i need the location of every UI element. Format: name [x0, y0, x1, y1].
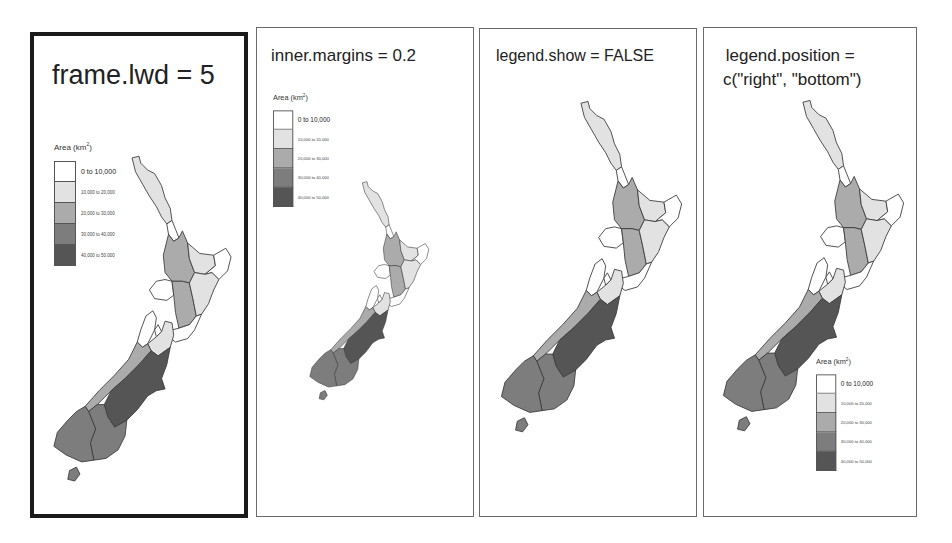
title-line-1: legend.position = — [719, 44, 861, 68]
region-northland — [132, 156, 172, 224]
legend-item: 10,000 to 20,000 — [816, 393, 873, 412]
legend-item: 30,000 to 40,000 — [816, 432, 873, 451]
region-southland — [310, 350, 338, 387]
panel-legend-show: legend.show = FALSE — [479, 28, 697, 517]
panel-legend-position: legend.position = c("right", "bottom") A… — [703, 27, 917, 517]
legend-title: Area (km2) — [273, 92, 330, 102]
legend-label: 20,000 to 30,000 — [298, 156, 329, 161]
region-southland — [501, 356, 543, 413]
nz-map — [704, 93, 916, 433]
legend-label: 10,000 to 20,000 — [298, 137, 329, 142]
legend-swatch — [273, 129, 293, 148]
legend-item: 40,000 to 50,000 — [816, 451, 873, 470]
legend-item: 10,000 to 20,000 — [273, 129, 330, 148]
region-stewart-island — [319, 391, 327, 400]
legend-item: 0 to 10,000 — [816, 374, 873, 393]
legend-swatch — [273, 149, 293, 168]
region-taranaki — [149, 280, 173, 301]
region-taranaki — [599, 227, 624, 248]
legend-swatch — [273, 168, 293, 187]
legend-item: 20,000 to 30,000 — [816, 413, 873, 432]
nz-map — [34, 151, 244, 481]
region-stewart-island — [516, 418, 528, 432]
legend-title: Area (km2) — [816, 356, 873, 366]
region-stewart-island — [738, 417, 750, 431]
region-southland — [723, 355, 765, 412]
legend-label: 30,000 to 40,000 — [841, 439, 872, 444]
region-northland — [803, 100, 844, 169]
legend-swatch — [816, 393, 836, 412]
legend-swatch — [273, 110, 293, 129]
legend-item: 20,000 to 30,000 — [273, 149, 330, 168]
panel-title: legend.position = c("right", "bottom") — [719, 44, 861, 92]
panel-frame-lwd: frame.lwd = 5 Area (km2) 0 to 10,00010,0… — [30, 32, 248, 518]
map-legend: Area (km2) 0 to 10,00010,000 to 20,00020… — [816, 356, 873, 471]
title-line-2: c("right", "bottom") — [723, 68, 861, 92]
legend-swatch — [816, 374, 836, 393]
legend-label: 10,000 to 20,000 — [841, 401, 872, 406]
legend-label: 40,000 to 50,000 — [841, 459, 872, 464]
region-northland — [362, 182, 389, 228]
legend-swatch — [816, 451, 836, 470]
region-taranaki — [821, 226, 846, 247]
legend-label: 0 to 10,000 — [298, 117, 330, 123]
legend-swatch — [816, 413, 836, 432]
legend-swatch — [816, 432, 836, 451]
nz-map — [297, 176, 437, 402]
panel-title: legend.show = FALSE — [496, 47, 654, 65]
region-southland — [54, 406, 96, 462]
panel-inner-margins: inner.margins = 0.2 Area (km2) 0 to 10,0… — [256, 27, 474, 517]
legend-item: 0 to 10,000 — [273, 110, 330, 129]
panel-title: frame.lwd = 5 — [52, 60, 215, 91]
nz-map — [482, 94, 694, 434]
panel-title: inner.margins = 0.2 — [271, 46, 416, 66]
region-northland — [581, 101, 622, 170]
region-stewart-island — [68, 467, 80, 481]
legend-label: 0 to 10,000 — [841, 381, 873, 387]
region-taranaki — [374, 265, 390, 279]
legend-swatch — [273, 187, 293, 206]
legend-label: 20,000 to 30,000 — [841, 420, 872, 425]
